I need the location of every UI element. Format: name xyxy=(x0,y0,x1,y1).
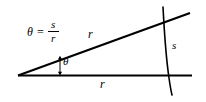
formula-theta: θ xyxy=(27,26,33,38)
formula-denominator: r xyxy=(49,33,57,44)
formula-equals: = xyxy=(36,26,45,38)
label-radius-lower: r xyxy=(100,78,105,90)
radian-definition-figure: θ = s r r r s θ xyxy=(0,0,206,102)
label-arc-length: s xyxy=(172,40,176,51)
angle-measure-arrow xyxy=(58,56,62,76)
label-angle-theta: θ xyxy=(63,56,68,67)
formula-numerator: s xyxy=(49,19,57,30)
formula-fraction: s r xyxy=(48,19,59,44)
angle-formula: θ = s r xyxy=(27,19,59,44)
label-radius-upper: r xyxy=(88,28,93,40)
